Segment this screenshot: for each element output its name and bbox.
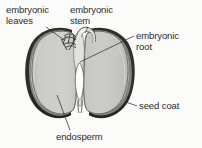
seed-diagram: embryonic leaves embryonic stem embryoni… [0,0,202,148]
label-embryonic-stem-line2: stem [70,16,128,27]
label-seed-coat: seed coat [139,101,179,112]
label-embryonic-stem-line1: embryonic [70,5,128,16]
leader-line-seed-coat [126,102,137,106]
label-embryonic-root: embryonic root [136,31,198,52]
label-embryonic-root-line2: root [136,42,198,53]
label-embryonic-leaves-line1: embryonic [6,5,64,16]
label-endosperm: endosperm [56,132,103,143]
label-embryonic-leaves: embryonic leaves [6,5,64,26]
label-embryonic-root-line1: embryonic [136,31,198,42]
label-embryonic-leaves-line2: leaves [6,16,64,27]
label-embryonic-stem: embryonic stem [70,5,128,26]
